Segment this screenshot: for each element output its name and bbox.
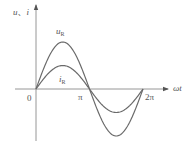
- y-label-separator: 、: [18, 9, 25, 17]
- y-axis-label: u、i: [13, 8, 29, 17]
- y-label-i: i: [27, 7, 30, 17]
- waveform-diagram: [0, 0, 193, 150]
- origin-label: 0: [27, 94, 32, 103]
- tick-label-2pi: 2π: [145, 93, 154, 102]
- curve-label-iR: iR: [59, 75, 66, 85]
- curve-label-subscript: R: [62, 79, 66, 85]
- tick-label-pi: π: [78, 93, 83, 102]
- curve-label-uR: uR: [56, 27, 65, 37]
- x-axis-label: ωt: [173, 84, 182, 93]
- curve-label-subscript: R: [61, 31, 65, 37]
